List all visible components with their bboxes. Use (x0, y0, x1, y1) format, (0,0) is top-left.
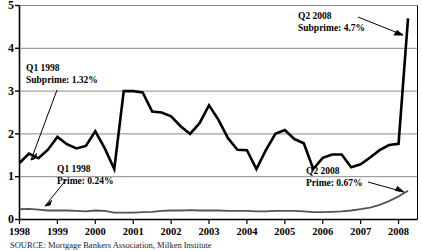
x-tick-label-1999: 1999 (39, 226, 75, 237)
annotation-q1-1998-subprime-line2: Subprime: 1.32% (26, 75, 98, 87)
source-note: SOURCE: Mortgage Bankers Association, Mi… (10, 240, 212, 250)
chart-plot-area (0, 0, 422, 251)
y-tick-label-2: 2 (0, 128, 14, 140)
x-tick-label-2002: 2002 (153, 226, 189, 237)
source-label: SOURCE: (10, 240, 46, 250)
annotation-q1-1998-prime-line2: Prime: 0.24% (57, 176, 113, 188)
x-tick-label-2008: 2008 (381, 226, 417, 237)
subprime-line (20, 18, 409, 169)
annotation-q2-2008-prime-line2: Prime: 0.67% (306, 178, 362, 190)
annotation-q2-2008-prime-line1: Q2 2008 (306, 166, 340, 176)
y-tick-label-5: 5 (0, 0, 14, 11)
y-tick-label-1: 1 (0, 170, 14, 182)
x-tick-label-2003: 2003 (191, 226, 227, 237)
prime-line (20, 191, 409, 213)
x-tick-label-2007: 2007 (343, 226, 379, 237)
x-tick-label-2006: 2006 (305, 226, 341, 237)
annotation-q2-2008-subprime-line1: Q2 2008 (298, 11, 332, 21)
annotation-q2-2008-subprime: Q2 2008 Subprime: 4.7% (298, 11, 365, 34)
x-tick-label-2000: 2000 (77, 226, 113, 237)
x-tick-label-1998: 1998 (2, 226, 38, 237)
annotation-q1-1998-subprime: Q1 1998 Subprime: 1.32% (26, 63, 98, 86)
x-tick-label-2004: 2004 (229, 226, 265, 237)
y-tick-label-4: 4 (0, 42, 14, 54)
annotation-q2-2008-subprime-line2: Subprime: 4.7% (298, 23, 365, 35)
arrow-q1-1998-subprime (31, 90, 57, 160)
x-tick-label-2005: 2005 (267, 226, 303, 237)
arrow-q2-2008-prime (368, 182, 404, 192)
annotation-q2-2008-prime: Q2 2008 Prime: 0.67% (306, 166, 362, 189)
foreclosure-rate-chart: 5 4 3 2 1 0 1998199920002001200220032004… (0, 0, 422, 251)
y-tick-label-0: 0 (0, 213, 14, 225)
y-tick-label-3: 3 (0, 85, 14, 97)
annotation-q1-1998-prime: Q1 1998 Prime: 0.24% (57, 164, 113, 187)
annotation-q1-1998-subprime-line1: Q1 1998 (26, 63, 60, 73)
annotation-q1-1998-prime-line1: Q1 1998 (57, 164, 91, 174)
source-text: Mortgage Bankers Association, Milken Ins… (48, 240, 212, 250)
x-tick-label-2001: 2001 (115, 226, 151, 237)
